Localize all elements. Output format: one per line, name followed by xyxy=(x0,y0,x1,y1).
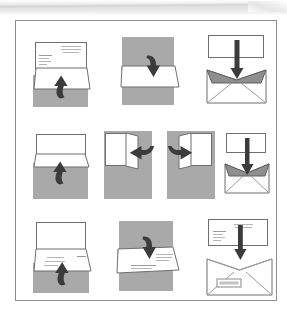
curved-right-arrow-icon xyxy=(167,143,193,163)
curved-down-arrow-icon xyxy=(142,54,164,81)
curved-left-arrow-icon xyxy=(129,143,155,163)
curved-up-arrow-icon xyxy=(51,159,71,185)
step-9-fold-printed-top-down xyxy=(116,221,182,293)
straight-down-arrow-icon xyxy=(241,138,254,176)
curved-down-arrow-icon xyxy=(138,235,160,263)
diagram-frame xyxy=(15,20,277,301)
standing-left-panel xyxy=(105,133,127,166)
step-6-fold-right-panel xyxy=(166,131,220,201)
step-1-fold-bottom-up xyxy=(33,37,93,107)
step-8-fold-printed-bottom-up xyxy=(33,221,93,293)
scanned-page xyxy=(0,0,287,320)
step-5-fold-left-panel xyxy=(103,131,157,201)
scan-edge-corner xyxy=(248,1,287,12)
step-10-insert-into-window-envelope xyxy=(206,219,274,297)
step-3-insert-into-envelope-thirds xyxy=(206,35,268,110)
curved-up-arrow-icon xyxy=(53,259,73,286)
step-2-fold-top-down xyxy=(120,37,182,107)
step-7-insert-into-envelope-half xyxy=(224,133,272,201)
straight-down-arrow-icon xyxy=(234,225,247,261)
curved-up-arrow-icon xyxy=(52,73,72,99)
straight-down-arrow-icon xyxy=(230,40,244,80)
step-4-fold-half-up xyxy=(33,131,91,201)
